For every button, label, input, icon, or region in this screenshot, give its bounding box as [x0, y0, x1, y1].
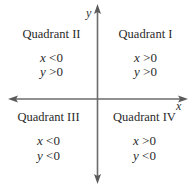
quadrant-i-y-condition: y >0: [97, 65, 194, 79]
quadrant-diagram: y x Quadrant II x <0 y >0 Quadrant I x >…: [0, 0, 194, 189]
quadrant-iv-label: Quadrant IV: [96, 110, 193, 124]
quadrant-ii-x-condition: x <0: [3, 51, 100, 65]
quadrant-iv-x-condition: x >0: [96, 134, 193, 148]
quadrant-ii-label: Quadrant II: [3, 27, 100, 41]
quadrant-ii: Quadrant II x <0 y >0: [3, 0, 100, 97]
quadrant-ii-y-condition: y >0: [3, 65, 100, 79]
quadrant-iii-x-condition: x <0: [0, 134, 97, 148]
quadrant-iv-y-condition: y <0: [96, 149, 193, 163]
quadrant-iii-y-condition: y <0: [0, 149, 97, 163]
quadrant-iv: Quadrant IV x >0 y <0: [96, 100, 193, 189]
quadrant-i: Quadrant I x >0 y >0: [97, 0, 194, 97]
quadrant-iii: Quadrant III x <0 y <0: [0, 100, 97, 189]
quadrant-i-x-condition: x >0: [97, 51, 194, 65]
quadrant-iii-label: Quadrant III: [0, 110, 97, 124]
quadrant-i-label: Quadrant I: [97, 27, 194, 41]
